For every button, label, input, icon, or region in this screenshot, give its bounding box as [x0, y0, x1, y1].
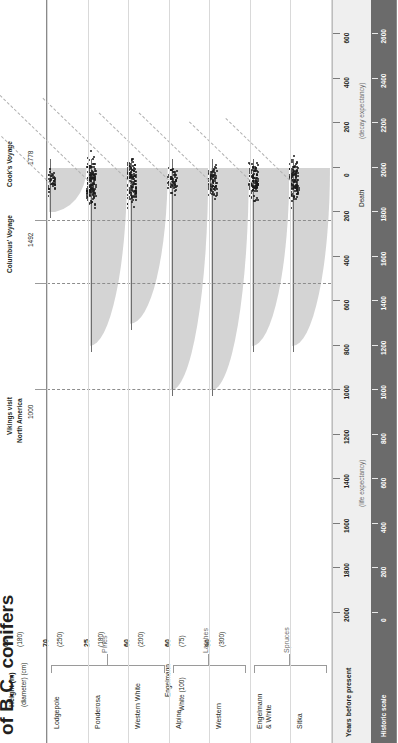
data-point — [176, 177, 178, 179]
years-before-present-label: Years before present — [345, 668, 353, 737]
historic-axis-tick — [372, 612, 378, 613]
species-name-label: Sitka — [296, 713, 305, 729]
data-point — [296, 162, 298, 164]
data-point — [293, 196, 295, 198]
historic-axis-tick — [372, 345, 378, 346]
historic-axis-tick-label: 1400 — [380, 296, 387, 310]
data-point — [214, 180, 216, 182]
data-point — [215, 185, 217, 187]
data-point — [90, 202, 92, 204]
species-diameter: (75) — [178, 635, 185, 647]
panel-gridline — [169, 0, 170, 743]
historic-axis-tick — [372, 568, 378, 569]
panel-gridline — [250, 0, 251, 743]
axis-tick — [333, 345, 340, 346]
historic-axis-tick-label: 200 — [380, 567, 387, 578]
data-point — [215, 175, 217, 177]
event-marker-line — [47, 220, 331, 221]
panel-gridline — [47, 0, 48, 743]
age-at-death-dot-swarm — [88, 0, 129, 743]
data-point — [296, 193, 298, 195]
species-extra-1: Engelmann — [164, 664, 171, 697]
species-diameter: (300) — [218, 632, 225, 647]
annotation-vikings-year: 1000 — [27, 405, 34, 419]
life-expectancy-label: (life expectancy) — [358, 460, 365, 507]
group-bracket-stem — [107, 654, 108, 666]
data-point — [94, 188, 96, 190]
species-name-label: Alpine — [175, 710, 184, 729]
species-name-label: Lodgepole — [53, 696, 62, 729]
historic-axis-tick-label: 2600 — [380, 29, 387, 43]
data-point — [49, 168, 51, 170]
data-point — [174, 186, 176, 188]
data-point — [132, 199, 134, 201]
panel-gridline — [209, 0, 210, 743]
age-at-death-dot-swarm — [47, 0, 88, 743]
age-at-death-dot-swarm — [128, 0, 169, 743]
axis-tick-label: 400 — [343, 255, 350, 266]
data-point — [257, 199, 259, 201]
decay-expectancy-label: (decay expectancy) — [358, 83, 365, 139]
axis-tick — [333, 167, 340, 168]
data-point — [92, 198, 94, 200]
data-point — [135, 199, 137, 201]
historic-scale-axis — [371, 0, 396, 743]
event-marker-tick — [35, 283, 47, 284]
data-point — [297, 167, 299, 169]
axis-tick — [333, 390, 340, 391]
axis-tick-label: 600 — [343, 33, 350, 44]
data-point — [174, 194, 176, 196]
data-point — [213, 188, 215, 190]
annotation-vikings-line1: Vikings visit — [6, 397, 13, 435]
data-point — [170, 192, 172, 194]
group-label: Pines — [101, 635, 109, 653]
data-point — [254, 200, 256, 202]
species-name-label: Western — [215, 703, 224, 729]
data-point — [251, 163, 253, 165]
axis-tick — [333, 34, 340, 35]
species-diameter: (200) — [137, 632, 144, 647]
height-label-line2: (diameter) (cm) — [20, 663, 27, 707]
data-point — [135, 176, 137, 178]
annotation-columbus-line1: Columbus' Voyage — [6, 215, 13, 273]
data-point — [252, 174, 254, 176]
data-point — [295, 198, 297, 200]
data-point — [296, 181, 298, 183]
axis-tick — [333, 612, 340, 613]
historic-scale-label: Historic scale — [380, 695, 387, 737]
historic-axis-tick — [372, 434, 378, 435]
data-point — [92, 171, 94, 173]
data-point — [216, 192, 218, 194]
species-name-label: Engelmann& White — [256, 694, 274, 729]
data-point — [134, 164, 136, 166]
data-point — [256, 174, 258, 176]
historic-axis-tick — [372, 523, 378, 524]
axis-tick-label: 800 — [343, 344, 350, 355]
event-marker-tick — [35, 390, 47, 391]
data-point — [175, 174, 177, 176]
historic-axis-tick — [372, 390, 378, 391]
data-point — [135, 183, 137, 185]
axis-tick-label: 400 — [343, 77, 350, 88]
annotation-vikings-line2: North America — [16, 398, 23, 443]
historic-axis-tick — [372, 78, 378, 79]
historic-axis-tick-label: 2400 — [380, 74, 387, 88]
historic-axis-tick — [372, 212, 378, 213]
age-at-death-dot-swarm — [209, 0, 250, 743]
axis-tick-label: 1200 — [343, 430, 350, 444]
historic-axis-tick-label: 0 — [380, 618, 387, 622]
species-name-label: Ponderosa — [94, 695, 103, 729]
axis-tick — [333, 523, 340, 524]
axis-tick-label: 1400 — [343, 474, 350, 488]
historic-axis-tick — [372, 301, 378, 302]
historic-axis-tick — [372, 256, 378, 257]
data-point — [132, 161, 134, 163]
axis-tick-label: 1600 — [343, 519, 350, 533]
axis-tick-label: 200 — [343, 122, 350, 133]
historic-axis-tick-label: 2000 — [380, 163, 387, 177]
data-point — [133, 167, 135, 169]
group-bracket — [51, 665, 165, 673]
height-label-line1: Height (m) — [8, 672, 16, 707]
years-before-present-axis — [332, 0, 372, 743]
data-point — [212, 185, 214, 187]
